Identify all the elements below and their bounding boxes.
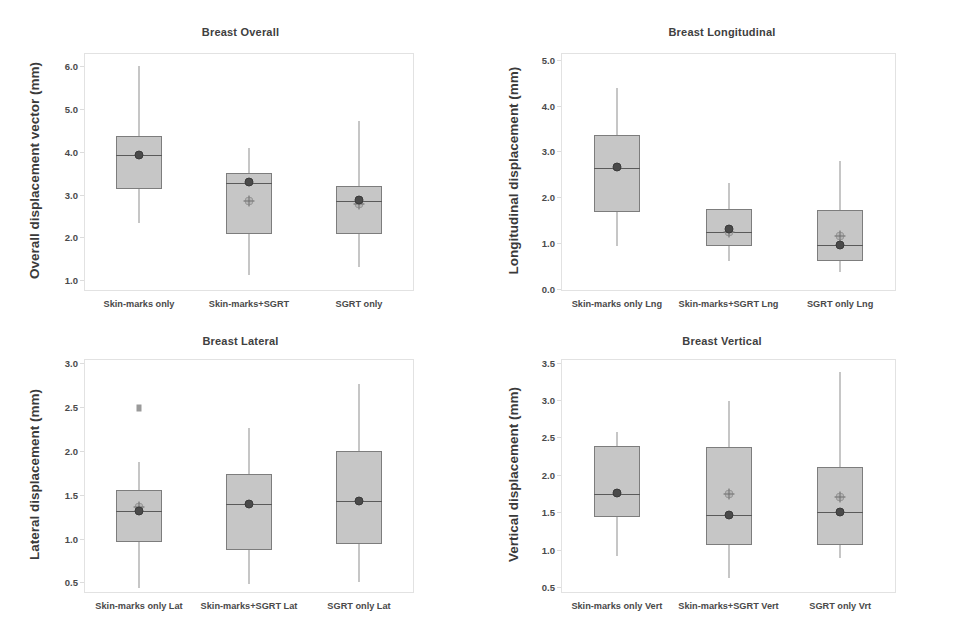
y-axis-tick-mark [557,243,561,244]
panel-title: Breast Longitudinal [481,26,963,38]
y-axis-tick-mark [80,407,84,408]
y-axis-tick-mark [80,109,84,110]
y-axis-tick-label: 5.0 [44,103,78,114]
y-axis-tick-mark [80,363,84,364]
y-axis-tick-label: 2.0 [521,192,555,203]
box-rect [594,446,640,517]
y-axis-tick-label: 2.0 [521,469,555,480]
y-axis-tick-mark [80,539,84,540]
box-rect [226,474,272,550]
box-outlier-marker [137,405,142,412]
y-axis-tick-label: 2.0 [44,446,78,457]
panel-title: Breast Vertical [481,335,963,347]
box-mean-marker [724,225,733,234]
box-mean-marker [612,488,621,497]
x-axis-tick-label: Skin-marks only Lng [572,299,662,309]
y-axis-tick-mark [80,495,84,496]
box-crosshair-marker [724,489,733,498]
box-rect [336,186,382,234]
y-axis-tick-mark [557,400,561,401]
y-axis-tick-mark [80,582,84,583]
y-axis-tick-label: 3.0 [44,358,78,369]
x-axis-tick-label: Skin-marks+SGRT Lat [201,601,298,611]
y-axis-tick-mark [557,550,561,551]
y-axis-title: Vertical displacement (mm) [506,357,521,592]
y-axis-tick-label: 2.5 [44,402,78,413]
y-axis-title: Overall displacement vector (mm) [27,46,42,296]
y-axis-tick-mark [557,437,561,438]
y-axis-tick-mark [80,152,84,153]
x-axis-tick-label: SGRT only Lat [327,601,390,611]
panel-breast-longitudinal: Breast Longitudinal Longitudinal displac… [481,0,963,313]
y-axis-tick-mark [557,587,561,588]
y-axis-tick-mark [80,66,84,67]
y-axis-tick-mark [557,363,561,364]
y-axis-tick-label: 1.0 [521,544,555,555]
y-axis-tick-label: 1.5 [521,507,555,518]
y-axis-tick-mark [557,60,561,61]
y-axis-title: Longitudinal displacement (mm) [506,46,521,296]
x-axis-tick-label: Skin-marks only Lat [95,601,182,611]
y-axis-tick-label: 5.0 [521,54,555,65]
x-axis-tick-label: SGRT only [336,299,383,309]
y-axis-tick-mark [557,512,561,513]
y-axis-tick-label: 4.0 [44,146,78,157]
y-axis-tick-mark [557,106,561,107]
box-mean-marker [135,507,144,516]
box-crosshair-marker [836,493,845,502]
panel-breast-vertical: Breast Vertical Vertical displacement (m… [481,313,963,626]
y-axis-tick-mark [557,197,561,198]
x-axis-tick-label: SGRT only Vrt [809,601,871,611]
y-axis-tick-label: 1.0 [44,533,78,544]
box-mean-marker [355,195,364,204]
y-axis-tick-label: 1.0 [44,275,78,286]
y-axis-title: Lateral displacement (mm) [27,357,42,592]
y-axis-tick-label: 0.5 [521,582,555,593]
y-axis-tick-label: 0.5 [44,577,78,588]
box-mean-marker [245,177,254,186]
y-axis-tick-mark [557,289,561,290]
y-axis-tick-label: 3.0 [521,146,555,157]
y-axis-tick-label: 6.0 [44,60,78,71]
x-axis-tick-label: Skin-marks+SGRT Lng [679,299,779,309]
box-mean-marker [836,507,845,516]
y-axis-tick-mark [557,151,561,152]
box-rect [116,136,162,190]
box-mean-marker [724,510,733,519]
y-axis-tick-label: 3.0 [44,189,78,200]
box-mean-marker [612,163,621,172]
panel-title: Breast Lateral [0,335,481,347]
x-axis-tick-label: Skin-marks only Vert [571,601,662,611]
y-axis-tick-label: 4.0 [521,100,555,111]
box-mean-marker [135,150,144,159]
x-axis-tick-label: Skin-marks only [104,299,175,309]
y-axis-tick-label: 0.0 [521,283,555,294]
box-crosshair-marker [836,232,845,241]
box-mean-marker [355,496,364,505]
boxplot-figure: Breast Overall Overall displacement vect… [0,0,963,626]
box-rect [594,135,640,212]
box-crosshair-marker [245,196,254,205]
box-mean-marker [836,241,845,250]
y-axis-tick-mark [80,451,84,452]
x-axis-tick-label: Skin-marks+SGRT [209,299,289,309]
panel-title: Breast Overall [0,26,481,38]
y-axis-tick-label: 1.5 [44,489,78,500]
x-axis-tick-label: Skin-marks+SGRT Vert [678,601,778,611]
y-axis-tick-label: 1.0 [521,237,555,248]
x-axis-tick-label: SGRT only Lng [807,299,873,309]
box-mean-marker [245,500,254,509]
y-axis-tick-label: 3.5 [521,357,555,368]
panel-breast-overall: Breast Overall Overall displacement vect… [0,0,481,313]
y-axis-tick-mark [80,195,84,196]
panel-breast-lateral: Breast Lateral Lateral displacement (mm)… [0,313,481,626]
y-axis-tick-label: 3.0 [521,395,555,406]
y-axis-tick-label: 2.0 [44,232,78,243]
y-axis-tick-mark [80,280,84,281]
y-axis-tick-mark [80,237,84,238]
y-axis-tick-mark [557,475,561,476]
y-axis-tick-label: 2.5 [521,432,555,443]
